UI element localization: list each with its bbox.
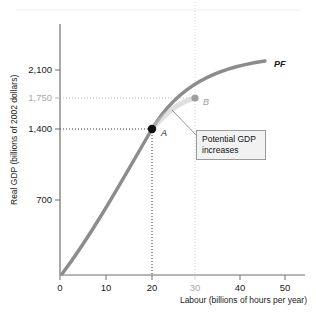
y-axis-title: Real GDP (billions of 2002 dollars) <box>9 75 19 205</box>
y-tick-label-1750: 1,750 <box>28 92 52 103</box>
x-tick-label-30: 30 <box>190 282 201 293</box>
y-tick-label-1400: 1,400 <box>28 123 52 134</box>
chart-figure: A B PF 2,100 1,750 1,400 700 0 10 20 30 … <box>0 0 316 312</box>
y-tick-label-2100: 2,100 <box>28 64 52 75</box>
x-tick-label-10: 10 <box>101 282 112 293</box>
pf-curve-label: PF <box>274 59 286 69</box>
x-tick-label-0: 0 <box>57 282 62 293</box>
production-function-chart: A B PF 2,100 1,750 1,400 700 0 10 20 30 … <box>0 0 316 312</box>
x-axis-title: Labour (billions of hours per year) <box>180 295 307 305</box>
x-tick-label-40: 40 <box>235 282 246 293</box>
callout-leader-line <box>172 110 196 135</box>
potential-gdp-increases-callout: Potential GDP increases <box>196 130 266 160</box>
x-tick-label-20: 20 <box>147 282 158 293</box>
y-tick-label-700: 700 <box>36 194 52 205</box>
production-function-curve <box>62 61 265 274</box>
point-b-label: B <box>203 97 209 107</box>
point-a-label: A <box>160 128 167 138</box>
point-a-marker <box>148 125 156 133</box>
x-tick-label-50: 50 <box>280 282 291 293</box>
point-b-marker <box>191 94 198 101</box>
